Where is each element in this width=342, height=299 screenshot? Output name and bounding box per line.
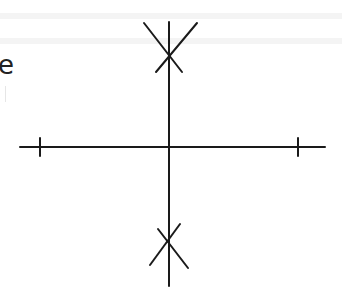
pole-zero-diagram bbox=[0, 0, 342, 299]
upper-pole-marker-icon bbox=[144, 23, 197, 72]
